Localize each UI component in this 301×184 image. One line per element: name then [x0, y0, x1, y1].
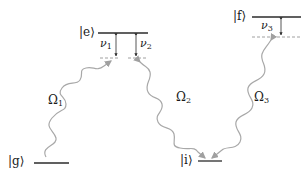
- omega2-symbol: Ω: [176, 90, 186, 104]
- nu2-symbol: ν: [140, 37, 147, 50]
- nu3-symbol: ν: [261, 19, 268, 32]
- level-f-label: |f⟩: [233, 10, 246, 22]
- detuning-nu3-label: ν3: [261, 20, 273, 33]
- omega2-subscript: 2: [186, 96, 191, 105]
- detuning-nu1-label: ν1: [100, 38, 112, 51]
- omega3-subscript: 3: [264, 96, 269, 105]
- energy-level-diagram: |g⟩ |e⟩ |i⟩ |f⟩ ν1 ν2 ν3 Ω1 Ω2 Ω3: [0, 0, 301, 184]
- level-i-label: |i⟩: [180, 154, 193, 166]
- coupling-omega1-wave: [45, 61, 111, 157]
- coupling-omega3-label: Ω3: [254, 91, 269, 105]
- coupling-omega2-label: Ω2: [176, 91, 191, 105]
- coupling-omega2-wave: [140, 62, 205, 158]
- nu1-subscript: 1: [107, 42, 112, 51]
- nu3-subscript: 3: [268, 24, 273, 33]
- level-e-label: |e⟩: [79, 26, 95, 38]
- omega1-symbol: Ω: [48, 93, 58, 107]
- omega1-subscript: 1: [58, 99, 63, 108]
- detuning-nu2-label: ν2: [140, 38, 152, 51]
- omega3-symbol: Ω: [254, 90, 264, 104]
- level-g-label: |g⟩: [8, 155, 24, 167]
- coupling-omega1-label: Ω1: [48, 94, 63, 108]
- nu1-symbol: ν: [100, 37, 107, 50]
- nu2-subscript: 2: [147, 42, 152, 51]
